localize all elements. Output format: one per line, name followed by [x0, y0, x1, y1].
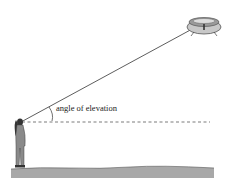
angle-of-elevation-label: angle of elevation	[56, 103, 117, 113]
observer-figure	[15, 119, 26, 168]
ground	[11, 166, 214, 178]
ufo-icon	[187, 18, 221, 37]
angle-arc	[49, 107, 53, 121]
elevation-diagram	[0, 0, 229, 185]
